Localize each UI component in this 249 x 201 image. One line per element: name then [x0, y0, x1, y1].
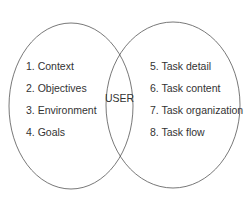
right-item-7: 7. Task organization	[150, 104, 243, 116]
left-item-2: 2. Objectives	[26, 82, 87, 94]
right-item-6: 6. Task content	[150, 82, 220, 94]
right-item-8: 8. Task flow	[150, 126, 205, 138]
venn-diagram: 1. Context 2. Objectives 3. Environment …	[0, 0, 249, 201]
left-item-1: 1. Context	[26, 60, 74, 72]
left-item-3: 3. Environment	[26, 104, 97, 116]
left-item-4: 4. Goals	[26, 126, 65, 138]
center-label: USER	[105, 92, 134, 104]
right-item-5: 5. Task detail	[150, 60, 211, 72]
